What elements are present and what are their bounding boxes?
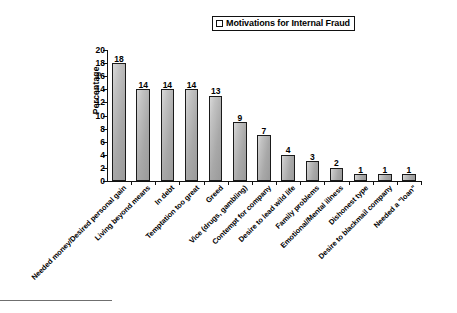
bar: 2 bbox=[330, 168, 344, 181]
bar-value-label: 14 bbox=[163, 81, 172, 90]
x-category-label: In debt bbox=[154, 184, 176, 206]
y-tick-label: 18 bbox=[96, 59, 105, 68]
bar-value-label: 4 bbox=[286, 146, 291, 155]
square-outline-marker-icon bbox=[216, 20, 223, 27]
y-tick-label: 10 bbox=[96, 111, 105, 120]
bar-value-label: 13 bbox=[211, 87, 220, 96]
plot-area: 02468101214161820 181414141397432111 bbox=[107, 50, 421, 181]
bar: 18 bbox=[112, 63, 126, 181]
bar: 13 bbox=[209, 96, 223, 181]
bar-value-label: 14 bbox=[187, 81, 196, 90]
y-axis-line bbox=[107, 50, 108, 181]
bar: 14 bbox=[185, 89, 199, 181]
y-tick-label: 12 bbox=[96, 98, 105, 107]
bar-value-label: 3 bbox=[310, 153, 315, 162]
bar: 14 bbox=[161, 89, 175, 181]
bar-value-label: 9 bbox=[237, 114, 242, 123]
bar: 1 bbox=[354, 174, 368, 181]
bar: 4 bbox=[281, 155, 295, 181]
bar-value-label: 1 bbox=[358, 166, 363, 175]
bar: 7 bbox=[257, 135, 271, 181]
y-tick-label: 2 bbox=[100, 164, 105, 173]
bar: 3 bbox=[306, 161, 320, 181]
x-category-label: Needed money/Desired personal gain bbox=[30, 184, 127, 281]
y-tick-label: 4 bbox=[100, 151, 105, 160]
bar-value-label: 7 bbox=[262, 127, 267, 136]
legend-label: Motivations for Internal Fraud bbox=[226, 19, 350, 28]
y-tick-label: 14 bbox=[96, 85, 105, 94]
x-category-label: Greed bbox=[204, 184, 224, 204]
y-tick-label: 6 bbox=[100, 137, 105, 146]
bar-value-label: 14 bbox=[138, 81, 147, 90]
footnote-rule bbox=[0, 300, 112, 301]
bar-value-label: 1 bbox=[382, 166, 387, 175]
y-tick-label: 8 bbox=[100, 124, 105, 133]
chart-legend: Motivations for Internal Fraud bbox=[212, 16, 355, 31]
bar: 9 bbox=[233, 122, 247, 181]
bar-value-label: 18 bbox=[114, 55, 123, 64]
y-tick-label: 0 bbox=[100, 177, 105, 186]
bar: 14 bbox=[136, 89, 150, 181]
fraud-motivations-bar-chart: Motivations for Internal Fraud Percentag… bbox=[0, 0, 457, 313]
y-tick-label: 16 bbox=[96, 72, 105, 81]
y-tick-label: 20 bbox=[96, 46, 105, 55]
bar-value-label: 2 bbox=[334, 159, 339, 168]
bar: 1 bbox=[378, 174, 392, 181]
x-axis-category-labels: Needed money/Desired personal gainLiving… bbox=[107, 183, 457, 308]
bar-value-label: 1 bbox=[407, 166, 412, 175]
bar: 1 bbox=[402, 174, 416, 181]
